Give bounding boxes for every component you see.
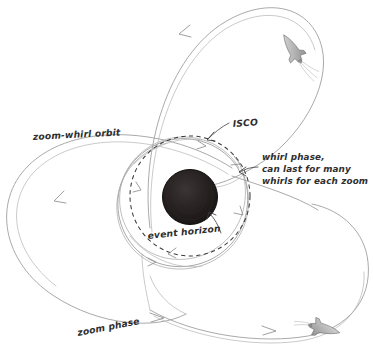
label-isco: ISCO [232, 116, 258, 129]
label-zoom-phase: zoom phase [75, 315, 140, 338]
label-whirl-phase-line2: can last for many [262, 164, 352, 174]
label-whirl-phase-line3: whirls for each zoom [262, 176, 368, 186]
space-shuttle-upper-right [276, 29, 322, 86]
label-zoom-whirl-orbit: zoom-whirl orbit [32, 126, 122, 142]
whirl-phase-leader-line [239, 167, 258, 176]
diagram-canvas: zoom-whirl orbit ISCO whirl phase, can l… [0, 0, 373, 353]
label-whirl-phase-line1: whirl phase, [262, 152, 325, 162]
zoom-whirl-orbit-diagram: zoom-whirl orbit ISCO whirl phase, can l… [0, 0, 373, 353]
orbit-direction-arrows [54, 25, 276, 335]
label-event-horizon: event horizon [147, 222, 221, 241]
isco-leader-line [207, 123, 229, 141]
event-horizon-disk [163, 170, 218, 225]
